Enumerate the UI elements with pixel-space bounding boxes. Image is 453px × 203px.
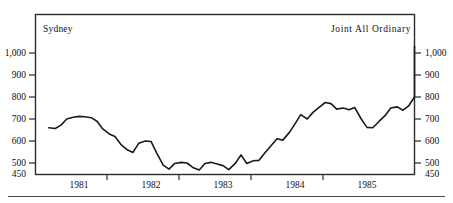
y-axis-right-label-900: 900 <box>425 70 453 80</box>
x-axis-label-1985: 1985 <box>339 180 395 190</box>
y-axis-left-label-500: 500 <box>0 158 26 168</box>
plot-frame <box>36 15 415 175</box>
y-axis-right-label-800: 800 <box>425 92 453 102</box>
data-series-line <box>49 46 415 170</box>
y-axis-right-label-1000: 1,000 <box>425 48 453 58</box>
y-axis-left-label-1000: 1,000 <box>0 48 26 58</box>
y-axis-right-ticks <box>415 53 422 163</box>
y-axis-right-label-700: 700 <box>425 114 453 124</box>
y-axis-right-label-450: 450 <box>425 169 453 179</box>
y-axis-left-label-700: 700 <box>0 114 26 124</box>
y-axis-left-label-800: 800 <box>0 92 26 102</box>
x-axis-label-1983: 1983 <box>195 180 251 190</box>
chart-left-caption: Sydney <box>43 24 73 34</box>
x-axis-label-1981: 1981 <box>51 180 107 190</box>
chart-right-caption: Joint All Ordinary <box>331 24 411 34</box>
y-axis-left-label-900: 900 <box>0 70 26 80</box>
chart-figure: Sydney Joint All Ordinary 1,000 900 800 … <box>0 0 453 203</box>
y-axis-left-ticks <box>29 53 36 163</box>
y-axis-right-label-500: 500 <box>425 158 453 168</box>
x-axis-label-1984: 1984 <box>267 180 323 190</box>
y-axis-right-label-600: 600 <box>425 136 453 146</box>
y-axis-left-label-600: 600 <box>0 136 26 146</box>
x-axis-label-1982: 1982 <box>123 180 179 190</box>
y-axis-left-label-450: 450 <box>0 169 26 179</box>
